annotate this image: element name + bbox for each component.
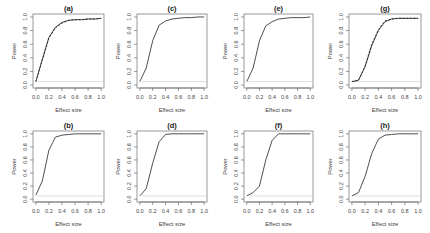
y-axis-label: Power <box>222 158 228 175</box>
power-curve-dashed <box>36 18 101 81</box>
x-axis: 0.00.20.40.60.81.0 <box>136 202 208 214</box>
x-tick-label: 0.2 <box>149 94 157 100</box>
y-axis-label: Power <box>327 158 333 175</box>
power-curve-solid <box>36 134 101 195</box>
x-tick-label: 0.4 <box>58 94 66 100</box>
x-axis: 0.00.20.40.60.81.0 <box>32 88 105 100</box>
plot-frame <box>244 14 313 88</box>
power-curve-solid <box>352 134 418 196</box>
panel-c: (c)0.00.20.40.60.81.00.00.20.40.60.81.0E… <box>115 4 208 113</box>
x-tick-label: 1.0 <box>200 208 208 214</box>
x-tick-label: 1.0 <box>97 208 105 214</box>
y-tick-label: 0.8 <box>22 27 28 35</box>
y-tick-label: 0.6 <box>233 40 239 48</box>
x-tick-label: 0.6 <box>281 208 289 214</box>
x-axis-label: Effect size <box>55 221 82 227</box>
y-axis-label: Power <box>11 43 17 60</box>
x-tick-label: 0.8 <box>84 94 92 100</box>
y-tick-label: 0.0 <box>233 195 239 203</box>
x-tick-label: 0.4 <box>162 208 170 214</box>
x-tick-label: 1.0 <box>306 94 314 100</box>
panel-e: (e)0.00.20.40.60.81.00.00.20.40.60.81.0E… <box>222 4 314 113</box>
x-tick-label: 0.4 <box>375 208 383 214</box>
panel-h: (h)0.00.20.40.60.81.00.00.20.40.60.81.0E… <box>327 121 422 227</box>
x-tick-label: 0.4 <box>268 94 276 100</box>
plot-frame <box>137 131 207 202</box>
y-tick-label: 0.4 <box>126 54 132 62</box>
y-axis-label: Power <box>115 158 121 175</box>
panel-title: (h) <box>380 121 390 130</box>
y-tick-label: 0.6 <box>22 156 28 164</box>
x-axis: 0.00.20.40.60.81.0 <box>32 202 105 214</box>
power-curve-solid <box>140 17 204 82</box>
x-tick-label: 0.4 <box>58 208 66 214</box>
power-curve-solid <box>140 134 204 196</box>
x-tick-label: 0.6 <box>388 208 396 214</box>
x-tick-label: 0.0 <box>348 208 356 214</box>
x-axis-label: Effect size <box>159 107 186 113</box>
y-axis: 0.00.20.40.60.81.0 <box>126 130 137 203</box>
x-tick-label: 0.0 <box>136 94 144 100</box>
y-tick-label: 0.0 <box>126 81 132 89</box>
panel-title: (a) <box>64 4 74 13</box>
y-tick-label: 1.0 <box>233 13 239 21</box>
x-tick-label: 0.2 <box>361 208 369 214</box>
power-curves-figure: (a)0.00.20.40.60.81.00.00.20.40.60.81.0E… <box>0 0 430 233</box>
y-tick-label: 0.8 <box>338 27 344 35</box>
x-tick-label: 0.4 <box>375 94 383 100</box>
y-axis: 0.00.20.40.60.81.0 <box>233 130 244 203</box>
power-curve-dashed <box>352 18 418 81</box>
x-axis: 0.00.20.40.60.81.0 <box>348 202 422 214</box>
x-axis: 0.00.20.40.60.81.0 <box>136 88 208 100</box>
y-axis: 0.00.20.40.60.81.0 <box>233 13 244 89</box>
panel-a: (a)0.00.20.40.60.81.00.00.20.40.60.81.0E… <box>11 4 105 113</box>
y-tick-label: 0.6 <box>233 156 239 164</box>
y-tick-label: 0.4 <box>338 169 344 177</box>
y-axis-label: Power <box>222 43 228 60</box>
x-axis: 0.00.20.40.60.81.0 <box>243 202 314 214</box>
y-tick-label: 0.8 <box>233 27 239 35</box>
y-tick-label: 0.2 <box>338 68 344 76</box>
x-tick-label: 0.0 <box>32 94 40 100</box>
x-tick-label: 0.8 <box>294 94 302 100</box>
x-tick-label: 0.6 <box>175 94 183 100</box>
y-tick-label: 0.8 <box>233 143 239 151</box>
y-tick-label: 0.4 <box>338 54 344 62</box>
y-tick-label: 0.6 <box>338 156 344 164</box>
y-tick-label: 0.8 <box>126 27 132 35</box>
y-tick-label: 0.4 <box>22 54 28 62</box>
x-tick-label: 1.0 <box>414 94 422 100</box>
y-tick-label: 0.4 <box>126 169 132 177</box>
y-tick-label: 0.6 <box>126 156 132 164</box>
y-tick-label: 0.4 <box>233 169 239 177</box>
y-tick-label: 1.0 <box>233 130 239 138</box>
plot-frame <box>33 14 104 88</box>
y-tick-label: 1.0 <box>22 13 28 21</box>
x-tick-label: 0.8 <box>187 94 195 100</box>
plot-frame <box>349 131 421 202</box>
x-tick-label: 0.4 <box>268 208 276 214</box>
x-tick-label: 0.8 <box>294 208 302 214</box>
y-tick-label: 0.8 <box>126 143 132 151</box>
x-tick-label: 0.8 <box>401 94 409 100</box>
x-tick-label: 1.0 <box>97 94 105 100</box>
x-axis-label: Effect size <box>265 221 292 227</box>
y-tick-label: 0.2 <box>233 68 239 76</box>
y-tick-label: 0.6 <box>338 40 344 48</box>
x-tick-label: 0.6 <box>71 94 79 100</box>
x-tick-label: 0.2 <box>256 94 264 100</box>
plot-frame <box>33 131 104 202</box>
panel-title: (f) <box>275 121 283 130</box>
x-axis-label: Effect size <box>265 107 292 113</box>
y-tick-label: 0.2 <box>338 182 344 190</box>
y-axis: 0.00.20.40.60.81.0 <box>126 13 137 89</box>
x-tick-label: 1.0 <box>200 94 208 100</box>
x-tick-label: 0.8 <box>401 208 409 214</box>
panel-d: (d)0.00.20.40.60.81.00.00.20.40.60.81.0E… <box>115 121 208 227</box>
x-tick-label: 0.6 <box>175 208 183 214</box>
y-axis-label: Power <box>115 43 121 60</box>
y-tick-label: 0.2 <box>22 68 28 76</box>
y-tick-label: 0.0 <box>338 81 344 89</box>
power-curve-solid <box>247 17 310 82</box>
y-tick-label: 0.0 <box>22 81 28 89</box>
